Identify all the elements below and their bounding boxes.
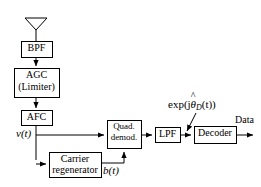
expr-suffix: (t)) xyxy=(202,98,216,110)
expr-prefix: exp(j xyxy=(168,98,191,110)
wire-bt-to-quad-demod xyxy=(101,152,124,163)
label-data-output: Data xyxy=(235,114,254,125)
block-agc-limiter[interactable] xyxy=(15,69,60,98)
block-carrier-regenerator[interactable] xyxy=(50,153,102,178)
block-decoder[interactable] xyxy=(195,127,237,144)
block-quad-demod[interactable] xyxy=(108,121,142,149)
block-lpf[interactable] xyxy=(156,128,181,143)
expr-theta-with-hat: ^θ xyxy=(191,98,196,110)
label-signal-bt: b(t) xyxy=(103,164,119,176)
label-signal-vt: v(t) xyxy=(16,127,31,139)
block-afc[interactable] xyxy=(22,111,53,126)
label-exp-jtheta-d: exp(j^θD(t)) xyxy=(168,98,216,112)
antenna-icon xyxy=(25,18,47,41)
diagram-vector-layer xyxy=(0,0,261,187)
hat-accent-icon: ^ xyxy=(191,91,196,101)
block-diagram-canvas: BPF AGC (Limiter) AFC Carrier regenerato… xyxy=(0,0,261,187)
block-bpf[interactable] xyxy=(22,42,53,58)
